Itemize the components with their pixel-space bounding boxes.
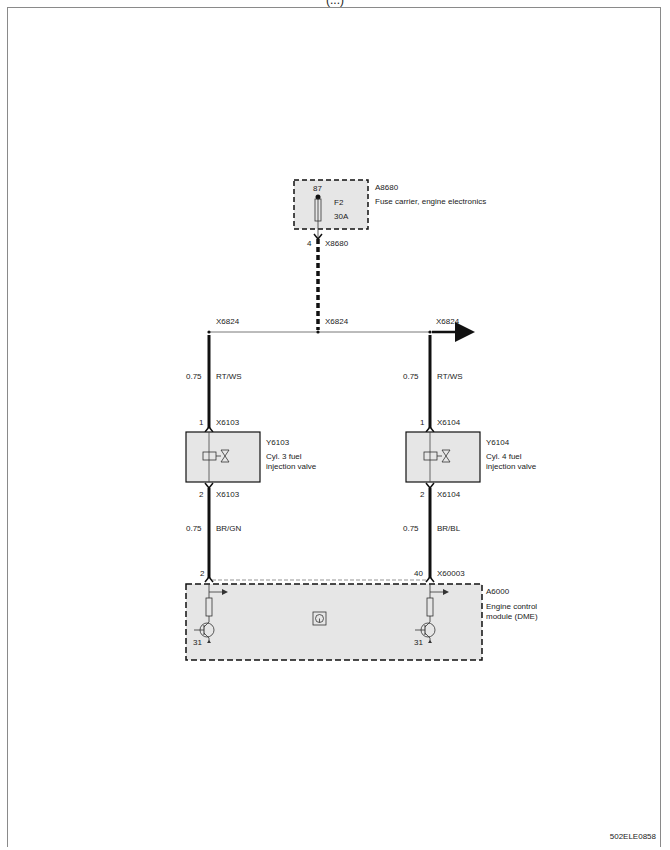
connector-label: X6103 bbox=[216, 418, 240, 427]
splice-bus-x6824: X6824 X6824 X6824 bbox=[207, 317, 470, 334]
component-name: injection valve bbox=[266, 462, 317, 471]
component-name: Cyl. 3 fuel bbox=[266, 452, 302, 461]
ecu-name: module (DME) bbox=[486, 612, 538, 621]
fuse-carrier-id: A8680 bbox=[375, 183, 399, 192]
engine-control-module-a6000: 31 31 bbox=[186, 584, 538, 660]
injector-y6104: Y6104 Cyl. 4 fuel injection valve bbox=[406, 432, 537, 482]
right-branch: 0.75 RT/WS 1 X6104 Y6104 Cyl. 4 fuel inj… bbox=[403, 335, 537, 582]
fuse-carrier-a8680: 87 F2 30A A8680 Fuse carrier, engine ele… bbox=[294, 180, 486, 238]
bus-label-left: X6824 bbox=[216, 317, 240, 326]
pin-label: 2 bbox=[200, 569, 205, 578]
fuse-label: F2 bbox=[334, 198, 344, 207]
wiring-diagram: 87 F2 30A A8680 Fuse carrier, engine ele… bbox=[0, 0, 670, 850]
pin-label: 40 bbox=[414, 569, 423, 578]
ecu-name: Engine control bbox=[486, 602, 537, 611]
wire-gauge: 0.75 bbox=[403, 524, 419, 533]
component-name: Cyl. 4 fuel bbox=[486, 452, 522, 461]
component-id: Y6103 bbox=[266, 438, 290, 447]
wiring-diagram-sheet: (...) 87 F2 30A A8680 Fuse carrier, engi… bbox=[0, 0, 670, 850]
wire-color: BR/BL bbox=[437, 524, 461, 533]
wire-gauge: 0.75 bbox=[186, 372, 202, 381]
pin-label: 2 bbox=[420, 490, 425, 499]
bus-label-right: X6824 bbox=[436, 317, 460, 326]
connector-label: X6104 bbox=[437, 418, 461, 427]
pin-label: 1 bbox=[199, 418, 204, 427]
connector-x8680: 4 X8680 bbox=[307, 234, 349, 248]
component-name: injection valve bbox=[486, 462, 537, 471]
connector-label: X60003 bbox=[437, 569, 465, 578]
fuse-rating: 30A bbox=[334, 212, 349, 221]
connector-label: X6103 bbox=[216, 490, 240, 499]
pin-label: 4 bbox=[307, 239, 312, 248]
wire-color: RT/WS bbox=[216, 372, 242, 381]
wire-color: BR/GN bbox=[216, 524, 242, 533]
document-id: 502ELE0858 bbox=[610, 832, 656, 841]
component-id: Y6104 bbox=[486, 438, 510, 447]
pin-label: 2 bbox=[199, 490, 204, 499]
pin-label: 1 bbox=[420, 418, 425, 427]
ecu-id: A6000 bbox=[486, 587, 510, 596]
left-branch: 0.75 RT/WS 1 X6103 Y6103 Cyl. 3 fuel inj… bbox=[186, 335, 317, 582]
injector-y6103: Y6103 Cyl. 3 fuel injection valve bbox=[186, 432, 317, 482]
ground-label: 31 bbox=[414, 638, 423, 647]
ground-label: 31 bbox=[193, 638, 202, 647]
bus-label-center: X6824 bbox=[325, 317, 349, 326]
wire-gauge: 0.75 bbox=[186, 524, 202, 533]
connector-label: X8680 bbox=[325, 239, 349, 248]
wire-color: RT/WS bbox=[437, 372, 463, 381]
wire-gauge: 0.75 bbox=[403, 372, 419, 381]
fuse-carrier-name: Fuse carrier, engine electronics bbox=[375, 197, 486, 206]
connector-label: X6104 bbox=[437, 490, 461, 499]
fuse-terminal-label: 87 bbox=[313, 184, 322, 193]
